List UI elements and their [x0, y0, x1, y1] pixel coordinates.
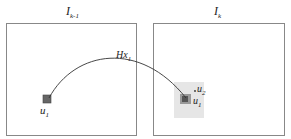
- frame-k-minus-1: [7, 24, 137, 136]
- right-u1-label: u1: [193, 96, 202, 109]
- u2-dot: [194, 90, 196, 92]
- frame-label-k-minus-1: Ik-1: [66, 5, 79, 20]
- left-point-label: u1: [40, 105, 49, 119]
- curve-label: Hx1: [116, 50, 131, 63]
- frame-label-k: Ik: [214, 5, 221, 20]
- homography-curve: [49, 58, 186, 98]
- frame-k: [154, 24, 285, 136]
